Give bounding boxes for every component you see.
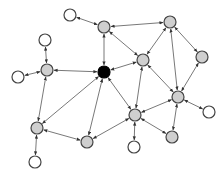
edge-G3-HUB (54, 70, 97, 72)
gray-node-G10 (166, 131, 178, 143)
edge-G5-G9 (182, 63, 199, 91)
leaf-node-W6 (29, 156, 41, 168)
leaf-node-W5 (128, 141, 140, 153)
edge-HUB-G8 (108, 78, 131, 110)
leaf-node-W1 (64, 9, 76, 21)
edge-HUB-G7 (89, 79, 103, 135)
edge-W3-G3 (25, 72, 40, 76)
leaf-node-W2 (39, 34, 51, 46)
gray-node-G3 (41, 64, 53, 76)
edge-HUB-G4 (111, 62, 137, 70)
edge-G6-G7 (44, 130, 81, 140)
edge-G6-W6 (35, 135, 36, 155)
edge-W1-G1 (77, 17, 98, 24)
edge-G8-G10 (141, 119, 166, 134)
gray-node-G9 (172, 91, 184, 103)
network-diagram (0, 0, 223, 175)
gray-node-G7 (81, 136, 93, 148)
gray-node-G1 (98, 21, 110, 33)
gray-node-G8 (129, 109, 141, 121)
gray-node-G4 (137, 54, 149, 66)
edge-G2-G4 (147, 28, 166, 55)
gray-node-G5 (196, 51, 208, 63)
edge-G8-W5 (134, 122, 135, 140)
graph-svg (0, 0, 223, 175)
edge-G4-G9 (148, 65, 173, 92)
edge-G4-G8 (136, 67, 142, 108)
node-layer (12, 9, 215, 168)
leaf-node-W3 (12, 71, 24, 83)
edge-G9-G8 (141, 100, 171, 113)
edge-W2-G3 (45, 47, 46, 63)
edge-G8-G7 (93, 118, 129, 138)
edge-G9-W4 (184, 100, 202, 109)
edge-G3-G6 (38, 77, 46, 121)
gray-node-G6 (31, 122, 43, 134)
edge-G2-G9 (171, 29, 178, 90)
edge-HUB-G6 (42, 76, 98, 123)
edge-G1-G2 (111, 23, 163, 27)
hub-node-HUB (98, 66, 110, 78)
edge-G9-G10 (173, 104, 177, 130)
edge-G1-G4 (109, 32, 137, 56)
gray-node-G2 (164, 16, 176, 28)
edge-G2-G5 (175, 27, 198, 52)
leaf-node-W4 (203, 106, 215, 118)
